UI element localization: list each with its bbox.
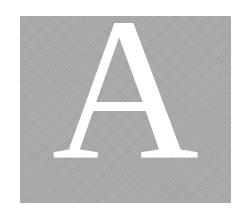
letter-tile: A bbox=[20, 16, 231, 203]
letter-glyph: A bbox=[20, 16, 231, 190]
